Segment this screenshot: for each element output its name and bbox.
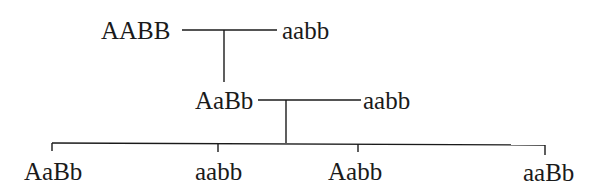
f1-offspring-genotype: AaBb <box>195 88 253 113</box>
offspring-genotype-4: aaBb <box>523 160 574 185</box>
offspring-genotype-1: AaBb <box>24 159 82 184</box>
parent-1-genotype: AABB <box>101 18 170 43</box>
offspring-genotype-2: aabb <box>195 159 242 184</box>
parent-2-genotype: aabb <box>282 18 329 43</box>
testcross-partner-genotype: aabb <box>363 88 410 113</box>
offspring-genotype-3: Aabb <box>328 159 382 184</box>
offspring-bar <box>52 143 545 145</box>
genetic-cross-diagram: AABB aabb AaBb aabb AaBb aabb Aabb aaBb <box>0 0 609 192</box>
